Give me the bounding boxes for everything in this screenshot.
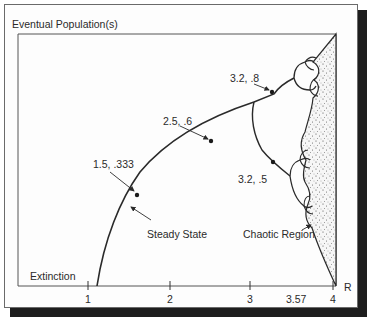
steady-state-label: Steady State [147, 228, 207, 240]
steady-state-curve [97, 102, 254, 286]
chaotic-region-fill [301, 34, 336, 286]
plot-axes [18, 34, 336, 286]
point-3-2-upper-label: 3.2, .8 [230, 72, 259, 84]
tick-label-3: 3 [247, 293, 253, 305]
point-3-2-lower-label: 3.2, .5 [238, 173, 267, 185]
tick-label-4: 4 [330, 293, 336, 305]
tick-label-3-57: 3.57 [286, 293, 307, 305]
extinction-label: Extinction [30, 270, 76, 282]
tick-label-2: 2 [167, 293, 173, 305]
x-axis-label: R [344, 281, 352, 293]
point-3-2-lower [271, 160, 275, 164]
chaotic-region-label: Chaotic Region [243, 228, 315, 240]
period-2-branch-upper [254, 78, 294, 102]
period-4-loop-upper [294, 61, 316, 91]
tick-label-1: 1 [85, 293, 91, 305]
annotation-arrows [110, 84, 311, 230]
point-2-5 [209, 139, 213, 143]
point-1-5-label: 1.5, .333 [93, 158, 134, 170]
point-2-5-label: 2.5, .6 [163, 115, 192, 127]
period-2-branch-lower [252, 102, 290, 176]
bifurcation-diagram: Eventual Population(s) Extinction Steady… [0, 0, 372, 322]
point-1-5 [135, 193, 139, 197]
y-axis-title: Eventual Population(s) [12, 18, 118, 30]
point-3-2-upper [270, 90, 274, 94]
